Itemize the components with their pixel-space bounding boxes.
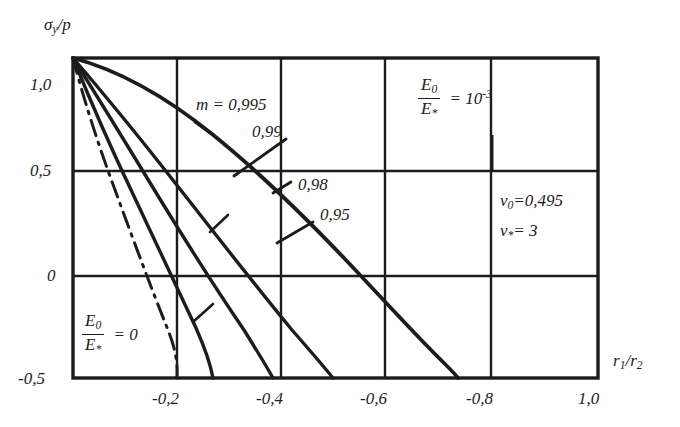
numerator-symbol-bl: E [85,311,95,330]
fraction-denominator: E* [418,99,440,121]
denominator-symbol: E [421,99,431,118]
numerator-symbol: E [421,75,431,94]
x-tick-label-1: -0,2 [152,390,179,407]
numerator-subscript: 0 [431,83,437,96]
note-poisson-nu-zero: ν0=0,495 [500,192,563,212]
x-tick-label-4: -0,8 [466,390,493,407]
curve-label-0-99: 0,99 [252,123,282,140]
y-tick-label-2: 0,5 [30,162,51,179]
chart-figure: σy/p 1,0 0,5 0 -0,5 -0,2 -0,4 -0,6 -0,8 … [0,0,680,427]
fraction-numerator-bl: E0 [82,312,104,335]
x-axis-title-slash-r: /r [625,351,636,370]
nu-star-symbol: ν [500,221,508,240]
x-axis-title: r1/r2 [613,352,643,372]
exponent: -3 [482,88,492,101]
curve-label-0-95: 0,95 [320,206,350,223]
y-tick-label-3: 0 [47,267,56,284]
curve-label-0-98: 0,98 [298,176,328,193]
leader-line-m-0-995 [195,122,212,134]
denominator-subscript: * [431,107,437,120]
denominator-symbol-bl: E [85,335,95,354]
y-tick-label-4: -0,5 [18,370,45,387]
fraction-denominator-bl: E* [82,335,104,357]
x-tick-label-5: 1,0 [578,390,599,407]
leader-line-0-98-lower [210,215,228,232]
leader-line-0-95 [277,222,313,243]
numerator-subscript-bl: 0 [95,319,101,332]
x-tick-label-2: -0,4 [256,390,283,407]
y-tick-label-1: 1,0 [30,76,51,93]
fraction-e0-over-estar-zero: E0 E* [82,312,104,356]
note-poisson-nu-star: ν*= 3 [500,222,538,242]
y-axis-title-rest: /p [58,15,71,34]
y-axis-title: σy/p [44,16,71,36]
fraction-e0-over-estar: E0 E* [418,76,440,120]
note-modulus-ratio-bottom-left: E0 E* = 0 [82,312,138,356]
nu-value: =0,495 [513,191,563,210]
x-tick-label-3: -0,6 [360,390,387,407]
denominator-subscript-bl: * [95,343,101,356]
x-axis-title-r: r [613,351,620,370]
nu-symbol: ν [500,191,508,210]
x-axis-title-sub2: 2 [637,359,643,372]
equation-right-side-bl: = 0 [108,326,137,343]
curve-label-m-0-995: m = 0,995 [196,96,267,113]
note-modulus-ratio-top-right: E0 E* = 10-3 [418,76,492,120]
fraction-numerator: E0 [418,76,440,99]
leader-line-0-95-lower [193,304,213,322]
equals-ten: = 10 [449,89,482,108]
equation-right-side: = 10-3 [444,89,491,107]
nu-star-value: = 3 [513,221,537,240]
